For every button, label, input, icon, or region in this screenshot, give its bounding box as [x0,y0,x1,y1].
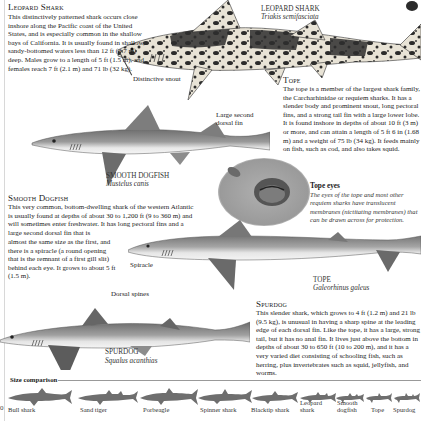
spurdog-heading: Spurdog [256,299,287,309]
tope-eyes-title: Tope eyes [310,181,340,190]
spiracle-label: Spiracle [130,261,153,269]
tope-text: The tope is a member of the largest shar… [283,85,421,154]
size-label-tope: Tope [371,406,393,413]
leopard-shark-heading: Leopard Shark [8,2,64,12]
size-label-leopard-shark: Leopard shark [300,399,328,413]
leopard-shark-body: This distinctively patterned shark occur… [8,13,148,73]
spinner-shark-silhouette [198,389,252,405]
spurdog-silhouette [394,393,420,403]
blacktip-shark-silhouette [252,391,298,404]
distinctive-snout-label: Distinctive snout [133,75,181,83]
sand-tiger-silhouette [78,389,138,405]
size-label-spinner-shark: Spinner shark [200,406,250,413]
tope-eye-illustration [212,150,312,230]
bull-shark-silhouette [8,388,72,406]
tope-scientific-name: Galeorhinus galeus [313,284,369,293]
smooth-dogfish-scientific-name: Mustelus canis [106,180,149,189]
size-comparison-title: Size comparison [10,375,57,384]
size-label-blacktip-shark: Blacktip shark [251,406,301,413]
size-label-bull-shark: Bull shark [8,406,48,413]
leopard-shark-text: This distinctively patterned shark occur… [8,13,148,73]
dorsal-spines-label: Dorsal spines [111,290,149,298]
smooth-dogfish-heading: Smooth Dogfish [8,193,68,203]
large-second-dorsal-fin-label: Large second dorsal fin [216,111,268,127]
size-label-sand-tiger: Sand tiger [80,406,120,413]
size-label-smooth-dogfish: Smooth dogfish [337,399,365,413]
leopard-shark-scientific-name: Triakis semifasciata [261,13,319,22]
size-label-spurdog: Spurdog [393,406,421,413]
spurdog-caption: SPURDOG [105,348,139,357]
tope-silhouette [366,393,392,403]
tope-illustration [128,220,421,290]
size-comparison-rule [58,380,421,381]
tope-heading: Tope [283,75,301,85]
size-label-porbeagle: Porbeagle [143,406,183,413]
spurdog-text: This slender shark, which grows to 4 ft … [256,309,421,378]
smooth-dogfish-text-narrow: almost the same size as the first, and t… [8,238,116,281]
spurdog-scientific-name: Squalus acanthias [105,357,158,366]
porbeagle-silhouette [140,388,198,406]
